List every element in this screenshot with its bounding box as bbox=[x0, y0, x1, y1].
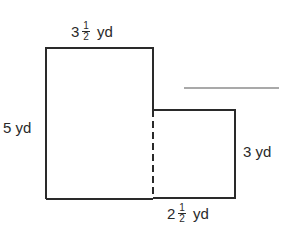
fraction: 12 bbox=[82, 21, 90, 42]
large-rectangle bbox=[46, 48, 153, 199]
composite-figure bbox=[0, 0, 291, 244]
right-height-label: 3 yd bbox=[243, 144, 271, 159]
small-rectangle bbox=[153, 110, 235, 198]
top-width-label: 312yd bbox=[71, 21, 113, 42]
bottom-width-label: 212yd bbox=[167, 203, 209, 224]
left-height-label: 5 yd bbox=[3, 120, 31, 135]
fraction: 12 bbox=[178, 203, 186, 224]
